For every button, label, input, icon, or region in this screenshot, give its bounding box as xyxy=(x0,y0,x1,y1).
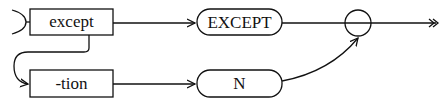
svg-text:-tion: -tion xyxy=(55,74,88,93)
node-tion: -tion xyxy=(30,70,113,97)
node-except: except xyxy=(30,9,113,35)
node-EXCEPT: EXCEPT xyxy=(197,9,282,35)
start-terminal-icon xyxy=(12,10,26,34)
railroad-diagram: except -tion EXCEPT N xyxy=(0,0,448,104)
svg-text:except: except xyxy=(49,12,94,31)
node-N: N xyxy=(197,70,282,97)
svg-text:N: N xyxy=(233,74,245,93)
edge-N-to-junction xyxy=(282,38,358,81)
svg-text:EXCEPT: EXCEPT xyxy=(207,13,272,32)
